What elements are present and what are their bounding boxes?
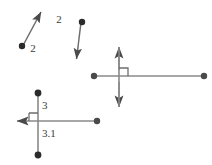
crossed-rays-figure: 2 2	[19, 12, 85, 59]
horizontal-right-endpoint-dot	[201, 73, 207, 79]
right-angle-mark-middle	[119, 68, 128, 76]
geometry-figure-svg: 2 2 3 3.1	[0, 0, 212, 165]
right-angle-mark-bottom	[29, 113, 38, 121]
label-lower-length: 3.1	[42, 127, 56, 139]
vertical-top-endpoint-dot	[35, 90, 42, 97]
ray-down-right	[77, 23, 82, 60]
perpendicular-figure-bottom: 3 3.1	[17, 90, 100, 159]
label-bottom-segment-length: 2	[30, 42, 36, 54]
ray-up-left	[23, 12, 41, 46]
perpendicular-figure-middle	[91, 47, 207, 107]
horizontal-left-endpoint-dot	[91, 73, 97, 79]
vertical-bottom-endpoint-dot	[35, 152, 42, 159]
label-top-segment-length: 2	[56, 13, 62, 25]
ray-up-left-endpoint-dot	[19, 43, 25, 49]
diagram-canvas: 2 2 3 3.1	[0, 0, 212, 165]
label-upper-length: 3	[42, 99, 48, 111]
ray-down-right-endpoint-dot	[79, 19, 85, 25]
horizontal-ray-endpoint-dot	[94, 118, 100, 124]
